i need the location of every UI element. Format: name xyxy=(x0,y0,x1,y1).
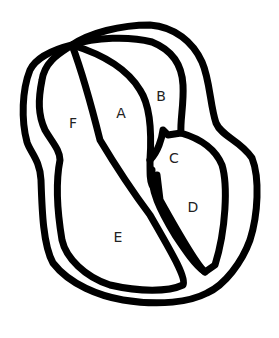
label-D: D xyxy=(188,200,199,214)
label-E: E xyxy=(114,230,123,244)
label-B: B xyxy=(156,89,166,103)
label-C: C xyxy=(169,151,179,165)
label-F: F xyxy=(69,116,77,130)
diagram-canvas xyxy=(0,0,279,338)
label-A: A xyxy=(116,106,126,120)
